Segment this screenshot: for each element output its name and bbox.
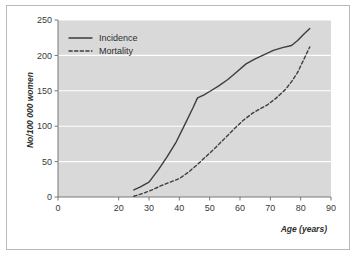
- y-axis-ticks: 050100150200250: [37, 15, 58, 202]
- x-tick-label-80: 80: [296, 203, 306, 213]
- x-tick-label-30: 30: [144, 203, 154, 213]
- legend-label-incidence: Incidence: [99, 33, 138, 43]
- x-axis-ticks: 02030405060708090: [55, 197, 336, 213]
- x-axis-title: Age (years): [280, 224, 327, 234]
- y-axis-title: No/100 000 women: [25, 72, 35, 148]
- y-tick-label-0: 0: [47, 192, 52, 202]
- y-tick-label-100: 100: [37, 121, 52, 131]
- line-chart: 050100150200250 02030405060708090 Incide…: [7, 6, 349, 249]
- y-tick-label-150: 150: [37, 86, 52, 96]
- x-tick-label-70: 70: [265, 203, 275, 213]
- legend-label-mortality: Mortality: [99, 46, 134, 56]
- x-tick-label-0: 0: [55, 203, 60, 213]
- x-tick-label-60: 60: [235, 203, 245, 213]
- x-tick-label-40: 40: [174, 203, 184, 213]
- x-tick-label-20: 20: [114, 203, 124, 213]
- y-tick-label-200: 200: [37, 51, 52, 61]
- y-tick-label-250: 250: [37, 15, 52, 25]
- figure-frame: 050100150200250 02030405060708090 Incide…: [6, 5, 350, 250]
- y-tick-label-50: 50: [42, 157, 52, 167]
- x-tick-label-50: 50: [205, 203, 215, 213]
- x-tick-label-90: 90: [326, 203, 336, 213]
